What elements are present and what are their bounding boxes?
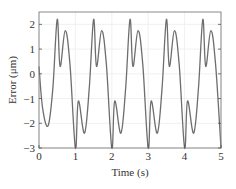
error-series-line [39, 19, 221, 148]
x-tick-label: 0 [36, 150, 42, 162]
x-axis-label: Time (s) [111, 166, 149, 179]
y-tick-label: 1 [30, 43, 36, 55]
x-tick-label: 4 [182, 150, 188, 162]
y-tick-label: 0 [30, 68, 36, 80]
y-tick-label: −1 [23, 93, 35, 105]
x-tick-label: 5 [218, 150, 224, 162]
x-tick-label: 2 [109, 150, 115, 162]
y-axis-label: Error (μm) [6, 56, 19, 104]
x-tick-label: 1 [73, 150, 79, 162]
y-tick-label: −3 [23, 142, 35, 154]
x-tick-label: 3 [145, 150, 151, 162]
y-tick-label: 2 [30, 18, 36, 30]
error-chart: 012345 −3−2−1012 Time (s) Error (μm) [0, 0, 236, 189]
y-tick-label: −2 [23, 117, 35, 129]
